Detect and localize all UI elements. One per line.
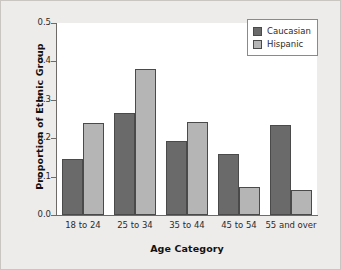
y-axis-tick [51,177,56,178]
bar [166,141,187,215]
bar [135,69,156,215]
x-axis-title: Age Category [57,243,317,254]
x-axis-line [56,215,318,216]
y-axis-tick [51,138,56,139]
y-axis-line [56,23,57,216]
legend-swatch-icon [253,40,262,49]
legend-swatch-icon [253,27,262,36]
bar [114,113,135,215]
legend-item: Caucasian [253,25,311,37]
bar [270,125,291,215]
legend-item: Hispanic [253,38,311,50]
y-axis-tick [51,23,56,24]
bar [62,159,83,215]
legend-label: Caucasian [267,26,311,36]
y-axis-tick [51,215,56,216]
bar-chart-figure: 0.00.10.20.30.40.5 18 to 2425 to 3435 to… [0,0,341,270]
legend: CaucasianHispanic [247,19,318,56]
bar [83,123,104,215]
bar [187,122,208,215]
y-axis-tick-label-wrap: 0.0 [19,215,51,216]
bar [218,154,239,215]
y-axis-tick [51,100,56,101]
x-axis-tick-label: 55 and over [251,220,331,230]
y-axis-title: Proportion of Ethnic Group [34,22,45,212]
bar [291,190,312,215]
y-axis-tick [51,61,56,62]
legend-label: Hispanic [267,39,303,49]
bar [239,187,260,215]
